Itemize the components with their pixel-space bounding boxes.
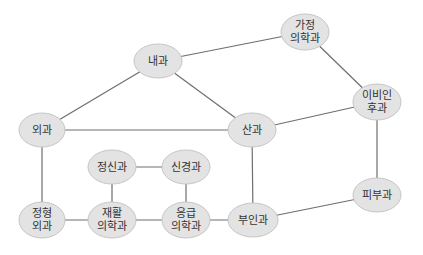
node-label: 가정 — [295, 19, 315, 32]
node-label: 신경과 — [171, 161, 201, 174]
node-label: 이비인 — [362, 89, 392, 102]
department-network-diagram: 내과가정의학과이비인후과외과산과정신과신경과정형외과재활의학과응급의학과부인과피… — [0, 0, 423, 255]
node-ibiinhu: 이비인후과 — [353, 84, 401, 120]
node-oegwa: 외과 — [19, 113, 65, 147]
node-label: 부인과 — [238, 214, 268, 227]
node-label: 응급 — [176, 207, 196, 220]
node-label: 내과 — [148, 55, 168, 68]
node-label: 외과 — [32, 220, 52, 233]
node-label: 후과 — [367, 102, 387, 115]
node-jeongsin: 정신과 — [88, 150, 136, 184]
nodes-layer: 내과가정의학과이비인후과외과산과정신과신경과정형외과재활의학과응급의학과부인과피… — [19, 14, 401, 238]
node-label: 산과 — [242, 124, 262, 137]
node-naegwa: 내과 — [134, 44, 182, 78]
node-sangwa: 산과 — [228, 113, 276, 147]
node-label: 정형 — [32, 207, 52, 220]
node-jaehwal: 재활의학과 — [88, 202, 136, 238]
node-pibu: 피부과 — [353, 178, 401, 212]
edges-layer — [42, 32, 377, 220]
node-gajeong: 가정의학과 — [281, 14, 329, 50]
node-label: 외과 — [32, 124, 52, 137]
node-singyeong: 신경과 — [162, 150, 210, 184]
node-label: 의학과 — [290, 32, 320, 45]
node-label: 재활 — [102, 206, 122, 220]
node-label: 의학과 — [171, 220, 201, 233]
node-label: 의학과 — [97, 220, 127, 233]
node-eunggeup: 응급의학과 — [162, 202, 210, 238]
node-label: 정신과 — [97, 161, 127, 174]
node-label: 피부과 — [362, 189, 392, 202]
node-buingwa: 부인과 — [228, 203, 278, 237]
node-jeonghyeong: 정형외과 — [19, 202, 65, 238]
